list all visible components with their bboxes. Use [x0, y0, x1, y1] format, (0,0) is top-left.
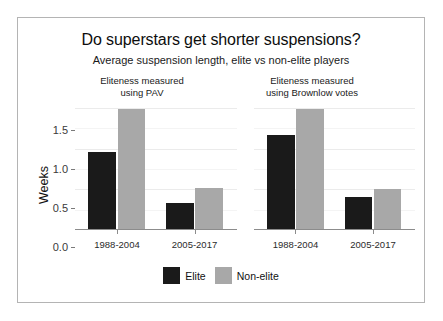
legend-label-elite: Elite [185, 270, 205, 282]
y-tick-label-0-0: 0.0 [38, 241, 68, 253]
x-tick-label-brownlow-1988-2004: 1988-2004 [255, 239, 336, 250]
x-tick-mark [195, 230, 196, 234]
y-tick-label-1-5: 1.5 [38, 124, 68, 136]
legend-entry-nonelite[interactable]: Non-elite [215, 267, 279, 284]
x-tick-mark [117, 230, 118, 234]
bar-brownlow-2005-2017-nonelite[interactable] [374, 189, 402, 229]
y-tick-label-0-5: 0.5 [38, 202, 68, 214]
x-tick-label-brownlow-2005-2017: 2005-2017 [333, 239, 414, 250]
chart-legend: Elite Non-elite [18, 267, 424, 284]
bar-brownlow-2005-2017-elite[interactable] [345, 197, 373, 229]
bar-pav-1988-2004-nonelite[interactable] [118, 109, 146, 229]
facet-strip-label-pav: Eliteness measured using PAV [63, 75, 221, 98]
chart-subtitle: Average suspension length, elite vs non-… [18, 54, 424, 66]
legend-swatch-nonelite [215, 267, 232, 284]
x-tick-label-pav-1988-2004: 1988-2004 [77, 239, 158, 250]
bar-group-pav-2005-2017 [165, 107, 223, 229]
facet-pav: 1988-2004 2005-2017 [75, 108, 237, 230]
x-tick-mark [295, 230, 296, 234]
y-tick-mark [71, 247, 75, 248]
bar-brownlow-1988-2004-nonelite[interactable] [296, 109, 324, 229]
legend-swatch-elite [163, 267, 180, 284]
chart-title: Do superstars get shorter suspensions? [18, 31, 424, 49]
facet-brownlow: 1988-2004 2005-2017 [254, 108, 416, 230]
legend-label-nonelite: Non-elite [237, 270, 279, 282]
bar-pav-2005-2017-nonelite[interactable] [195, 188, 223, 229]
bar-group-brownlow-1988-2004 [266, 107, 324, 229]
y-tick-label-1-0: 1.0 [38, 163, 68, 175]
chart-card: Do superstars get shorter suspensions? A… [17, 17, 425, 303]
legend-entry-elite[interactable]: Elite [163, 267, 205, 284]
x-axis-line-pav [75, 229, 237, 230]
bar-pav-2005-2017-elite[interactable] [166, 203, 194, 229]
bar-group-pav-1988-2004 [88, 107, 146, 229]
facet-strip-label-brownlow: Eliteness measured using Brownlow votes [233, 75, 391, 98]
bar-pav-1988-2004-elite[interactable] [88, 152, 116, 229]
x-tick-label-pav-2005-2017: 2005-2017 [154, 239, 235, 250]
plot-area: 1988-2004 2005-2017 1988-2004 2005-2 [75, 108, 415, 230]
bar-brownlow-1988-2004-elite[interactable] [267, 135, 295, 229]
bar-group-brownlow-2005-2017 [344, 107, 402, 229]
x-axis-line-brownlow [254, 229, 416, 230]
x-tick-mark [373, 230, 374, 234]
